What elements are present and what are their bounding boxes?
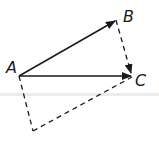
vector-b-c (116, 20, 131, 73)
vector-a-b (19, 21, 115, 76)
diagram-canvas: A B C (0, 0, 159, 141)
point-label-b: B (123, 7, 134, 26)
vector-diagram: A B C (0, 0, 159, 141)
dashed-segment-d-c (33, 77, 132, 131)
point-label-a: A (5, 58, 17, 77)
point-label-c: C (135, 71, 147, 90)
dashed-segment-a-d (19, 76, 33, 131)
